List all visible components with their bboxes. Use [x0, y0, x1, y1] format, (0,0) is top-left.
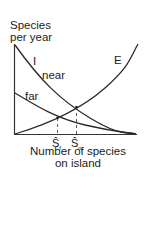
far-label: far: [25, 90, 38, 102]
x-axis-label-line1: Number of species: [28, 145, 128, 157]
equilibrium-far-point: [56, 117, 59, 120]
equilibrium-near-point: [75, 106, 78, 109]
extinction-label: E: [114, 54, 122, 66]
immigration-label: I: [33, 55, 36, 67]
near-label: near: [42, 69, 65, 81]
x-axis-label: Number of species on island: [28, 145, 128, 169]
x-axis-label-line2: on island: [28, 157, 128, 169]
